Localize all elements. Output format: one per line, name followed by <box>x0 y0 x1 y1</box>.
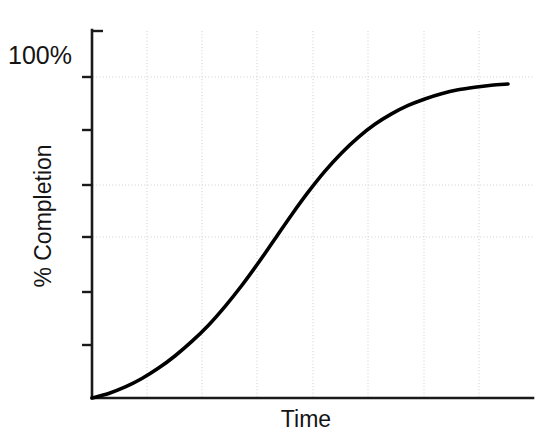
s-curve-chart: 100% % Completion Time <box>0 0 560 437</box>
y-axis-max-label: 100% <box>8 41 72 69</box>
x-axis-title: Time <box>281 406 331 432</box>
y-axis-title: % Completion <box>30 144 56 287</box>
chart-background <box>0 0 560 437</box>
chart-container: 100% % Completion Time <box>0 0 560 437</box>
